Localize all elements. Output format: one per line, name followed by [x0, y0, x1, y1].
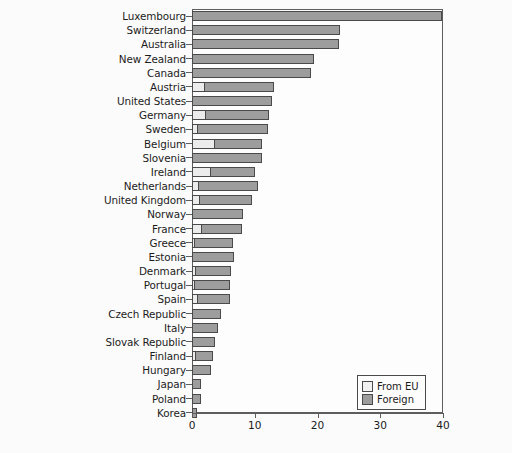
- bar-row-label: Norway: [147, 207, 186, 221]
- legend-swatch-from-eu: [362, 381, 373, 392]
- bar-row: Germany: [0, 108, 512, 122]
- bar-segment-foreign: [195, 266, 231, 276]
- stacked-bar: [192, 11, 442, 21]
- bar-row-label: New Zealand: [119, 52, 186, 66]
- bar-row-label: Austria: [150, 80, 186, 94]
- bar-row: Slovak Republic: [0, 335, 512, 349]
- stacked-bar: [192, 280, 230, 290]
- stacked-bar: [192, 309, 221, 319]
- stacked-bar: [192, 323, 218, 333]
- bar-segment-foreign: [197, 294, 229, 304]
- bar-row: Japan: [0, 377, 512, 391]
- bar-row: Portugal: [0, 278, 512, 292]
- bar-row-label: Poland: [152, 392, 186, 406]
- stacked-bar: [192, 54, 314, 64]
- stacked-bar: [192, 167, 255, 177]
- x-axis-tick: [192, 413, 193, 418]
- x-axis-tick: [255, 413, 256, 418]
- stacked-bar: [192, 365, 211, 375]
- bar-row: Denmark: [0, 264, 512, 278]
- bar-row: Italy: [0, 321, 512, 335]
- legend-item-from-eu: From EU: [362, 380, 419, 392]
- bar-segment-foreign: [192, 68, 311, 78]
- stacked-bar: [192, 252, 234, 262]
- stacked-bar: [192, 238, 233, 248]
- bar-row: Belgium: [0, 137, 512, 151]
- stacked-bar: [192, 39, 339, 49]
- stacked-bar: [192, 266, 231, 276]
- bar-row: Ireland: [0, 165, 512, 179]
- bar-row-label: Hungary: [142, 363, 186, 377]
- stacked-bar: [192, 139, 262, 149]
- stacked-bar: [192, 82, 274, 92]
- bar-segment-foreign: [210, 167, 255, 177]
- bar-chart: LuxembourgSwitzerlandAustraliaNew Zealan…: [0, 0, 512, 453]
- x-axis-tick-label: 40: [436, 419, 449, 431]
- stacked-bar: [192, 110, 269, 120]
- bar-row-label: Greece: [150, 236, 186, 250]
- bar-row-label: Canada: [147, 66, 186, 80]
- bar-row: Sweden: [0, 122, 512, 136]
- bar-segment-foreign: [201, 224, 242, 234]
- stacked-bar: [192, 337, 215, 347]
- bar-segment-foreign: [194, 280, 231, 290]
- legend-label-foreign: Foreign: [377, 394, 414, 405]
- x-axis-tick-label: 30: [374, 419, 387, 431]
- bar-row: Australia: [0, 37, 512, 51]
- bar-row-label: Japan: [158, 377, 186, 391]
- x-axis-tick: [443, 413, 444, 418]
- bar-segment-from-eu: [192, 167, 211, 177]
- stacked-bar: [192, 68, 311, 78]
- bar-segment-foreign: [192, 394, 201, 404]
- bar-row: Spain: [0, 292, 512, 306]
- bar-segment-foreign: [192, 153, 262, 163]
- bar-row: France: [0, 222, 512, 236]
- bar-row: New Zealand: [0, 52, 512, 66]
- bar-row-label: Slovenia: [143, 151, 186, 165]
- bar-segment-foreign: [197, 124, 268, 134]
- bar-row-label: Germany: [139, 108, 186, 122]
- stacked-bar: [192, 224, 242, 234]
- stacked-bar: [192, 209, 243, 219]
- stacked-bar: [192, 96, 272, 106]
- stacked-bar: [192, 195, 252, 205]
- bar-segment-foreign: [192, 309, 221, 319]
- bar-row-label: Luxembourg: [122, 9, 186, 23]
- bar-row: Austria: [0, 80, 512, 94]
- bar-segment-foreign: [205, 110, 269, 120]
- x-axis-tick-label: 10: [248, 419, 261, 431]
- bar-segment-foreign: [192, 379, 201, 389]
- bar-row-label: Ireland: [151, 165, 186, 179]
- x-axis-tick-label: 0: [189, 419, 196, 431]
- bar-segment-foreign: [192, 96, 272, 106]
- bar-row-label: Spain: [157, 292, 186, 306]
- x-axis-tick: [380, 413, 381, 418]
- bar-row: Poland: [0, 392, 512, 406]
- bar-segment-foreign: [214, 139, 262, 149]
- bar-row: Hungary: [0, 363, 512, 377]
- bar-row-label: Finland: [150, 349, 186, 363]
- x-axis-tick-label: 20: [311, 419, 324, 431]
- bar-row: United Kingdom: [0, 193, 512, 207]
- bar-row-label: Netherlands: [124, 179, 186, 193]
- bar-row-label: Italy: [164, 321, 186, 335]
- stacked-bar: [192, 351, 213, 361]
- stacked-bar: [192, 379, 201, 389]
- bar-segment-foreign: [204, 82, 273, 92]
- bar-row: Estonia: [0, 250, 512, 264]
- bar-row-label: United States: [117, 94, 186, 108]
- bar-row-label: France: [152, 222, 186, 236]
- bar-segment-foreign: [192, 25, 340, 35]
- stacked-bar: [192, 394, 201, 404]
- legend-item-foreign: Foreign: [362, 393, 419, 405]
- bar-row: Greece: [0, 236, 512, 250]
- bar-row-label: Sweden: [146, 122, 186, 136]
- bar-row: United States: [0, 94, 512, 108]
- bar-row-label: Estonia: [148, 250, 186, 264]
- bar-row: Netherlands: [0, 179, 512, 193]
- bar-segment-foreign: [198, 181, 258, 191]
- bar-segment-foreign: [194, 238, 233, 248]
- bar-row-label: Belgium: [144, 137, 186, 151]
- bar-segment-from-eu: [192, 110, 206, 120]
- bar-row-label: Czech Republic: [108, 307, 186, 321]
